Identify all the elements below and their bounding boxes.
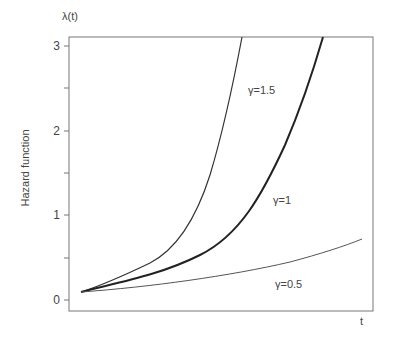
label-gamma-0-5: γ=0.5 [275, 278, 302, 290]
label-gamma-1-5: γ=1.5 [248, 84, 275, 96]
hazard-chart: 0 1 2 3 λ(t) Hazard function t γ=1.5 γ=1… [0, 0, 393, 338]
curve-gamma-0-5 [81, 239, 362, 292]
y-axis-title: Hazard function [19, 129, 31, 206]
curve-gamma-1 [81, 37, 323, 292]
tick-label-2: 2 [53, 124, 60, 138]
curve-gamma-1-5 [81, 37, 242, 292]
tick-label-1: 1 [53, 208, 60, 222]
x-axis-title: t [360, 315, 363, 327]
tick-label-3: 3 [53, 39, 60, 53]
plot-frame [69, 37, 373, 311]
label-gamma-1: γ=1 [273, 194, 291, 206]
y-axis-ticks [64, 46, 69, 300]
y-axis-tick-labels: 0 1 2 3 [53, 39, 60, 307]
tick-label-0: 0 [53, 293, 60, 307]
y-axis-symbol: λ(t) [62, 10, 78, 22]
